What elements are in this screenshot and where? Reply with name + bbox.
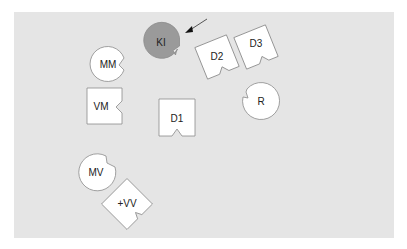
- shape-r[interactable]: R: [243, 83, 280, 120]
- shape-mm-label: MM: [100, 59, 117, 70]
- shape-d1[interactable]: D1: [159, 99, 195, 136]
- shape-vv-label: +VV: [117, 198, 137, 209]
- shape-d3[interactable]: D3: [234, 25, 278, 69]
- shape-d3-label: D3: [250, 38, 263, 49]
- pointer-arrow-icon: [185, 19, 207, 33]
- shape-ki-label: KI: [156, 37, 165, 48]
- shape-mv-label: MV: [89, 167, 104, 178]
- shape-d1-label: D1: [171, 113, 184, 124]
- shape-mm[interactable]: MM: [90, 46, 124, 81]
- shape-mv[interactable]: MV: [79, 154, 116, 191]
- shape-vm-label: VM: [94, 101, 109, 112]
- shape-d2[interactable]: D2: [195, 35, 239, 79]
- shape-r-label: R: [257, 96, 264, 107]
- shape-ki[interactable]: KI: [144, 22, 180, 58]
- shape-d2-label: D2: [211, 51, 224, 62]
- shape-vm[interactable]: VM: [87, 88, 122, 124]
- diagram-canvas: KI D2 D3 MM VM D1 R MV +VV: [0, 0, 407, 249]
